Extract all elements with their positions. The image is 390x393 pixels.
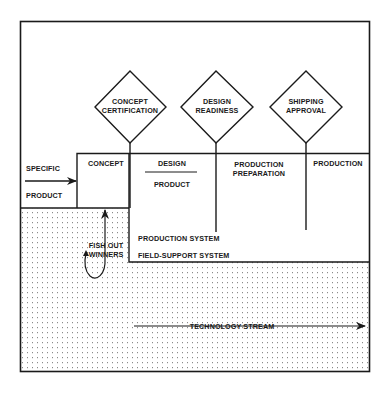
gate-label-line1: DESIGN bbox=[203, 97, 231, 106]
gate-label-line1: CONCEPT bbox=[112, 97, 148, 106]
stage-product: PRODUCT bbox=[154, 180, 191, 189]
gate-label-line2: APPROVAL bbox=[286, 106, 327, 115]
stage-production-preparation-2: PREPARATION bbox=[233, 169, 285, 178]
stage-design: DESIGN bbox=[158, 159, 186, 168]
specific-product-input: SPECIFIC PRODUCT bbox=[25, 164, 76, 200]
gate-shipping-approval: SHIPPING APPROVAL bbox=[270, 71, 342, 230]
product-development-diagram: CONCEPT CERTIFICATION DESIGN READINESS S… bbox=[0, 0, 390, 393]
field-support-system-label: FIELD-SUPPORT SYSTEM bbox=[138, 251, 229, 260]
technology-region bbox=[21, 208, 369, 370]
stage-production: PRODUCTION bbox=[313, 159, 362, 168]
production-system-label: PRODUCTION SYSTEM bbox=[138, 234, 220, 243]
feedback-label-line2: WINNERS bbox=[89, 250, 124, 259]
stage-concept: CONCEPT bbox=[88, 159, 124, 168]
input-label-top: SPECIFIC bbox=[26, 164, 60, 173]
stream-label: TECHNOLOGY STREAM bbox=[190, 322, 275, 331]
gate-label-line2: CERTIFICATION bbox=[102, 106, 158, 115]
stage-production-preparation-1: PRODUCTION bbox=[234, 160, 283, 169]
feedback-label-line1: FISH OUT bbox=[89, 241, 124, 250]
input-label-bottom: PRODUCT bbox=[26, 191, 63, 200]
gate-label-line2: READINESS bbox=[196, 106, 239, 115]
gate-label-line1: SHIPPING bbox=[288, 97, 323, 106]
gate-design-readiness: DESIGN READINESS bbox=[181, 71, 253, 232]
